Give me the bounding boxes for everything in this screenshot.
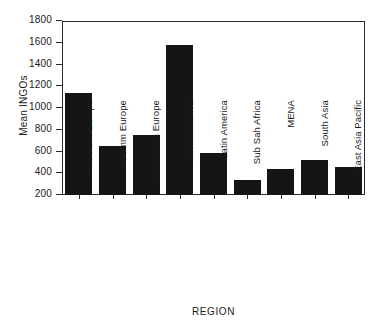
y-tick-label: 1000 <box>0 101 52 113</box>
x-category-label-text: MENA <box>285 100 296 200</box>
y-tick-mark <box>56 172 62 173</box>
x-category-label-text: Sub Sah Africa <box>251 100 262 200</box>
x-tick-mark <box>348 195 349 199</box>
y-tick-mark <box>56 64 62 65</box>
x-tick-mark <box>113 195 114 199</box>
y-tick-mark <box>56 107 62 108</box>
x-tick-mark <box>146 195 147 199</box>
x-tick-mark <box>247 195 248 199</box>
y-tick-label: 1600 <box>0 36 52 48</box>
x-category-label: MENA <box>285 100 296 200</box>
x-tick-mark <box>180 195 181 199</box>
x-category-label: North America <box>184 100 195 200</box>
x-tick-mark <box>79 195 80 199</box>
x-category-label: South Asia <box>319 100 330 200</box>
x-category-label-text: Western Europe <box>83 100 94 200</box>
x-axis-title: REGION <box>62 306 365 317</box>
x-category-label-text: Latin America <box>218 100 229 200</box>
x-category-label: East Asia Pacific <box>352 100 363 200</box>
y-tick-mark <box>56 42 62 43</box>
y-tick-mark <box>56 129 62 130</box>
x-category-label: Sub Sah Africa <box>251 100 262 200</box>
x-category-label: Comm Europe <box>117 100 128 200</box>
x-category-label: Post-Comm Europe <box>150 100 161 200</box>
x-category-label-text: East Asia Pacific <box>352 100 363 200</box>
x-category-label-text: Comm Europe <box>117 100 128 200</box>
bar-chart-figure: Mean INGOs 20040060080010001200140016001… <box>0 0 384 332</box>
y-tick-label: 800 <box>0 123 52 135</box>
y-tick-label: 200 <box>0 188 52 200</box>
y-tick-mark <box>56 85 62 86</box>
y-tick-mark <box>56 194 62 195</box>
x-tick-mark <box>214 195 215 199</box>
y-tick-label: 1400 <box>0 58 52 70</box>
y-tick-label: 1800 <box>0 14 52 26</box>
x-category-label-text: North America <box>184 100 195 200</box>
y-tick-mark <box>56 151 62 152</box>
x-tick-mark <box>315 195 316 199</box>
x-category-label-text: South Asia <box>319 100 330 200</box>
y-tick-mark <box>56 20 62 21</box>
x-category-label: Western Europe <box>83 100 94 200</box>
x-tick-mark <box>281 195 282 199</box>
x-category-label: Latin America <box>218 100 229 200</box>
x-category-label-text: Post-Comm Europe <box>150 100 161 200</box>
y-tick-label: 600 <box>0 145 52 157</box>
y-tick-label: 400 <box>0 166 52 178</box>
y-tick-label: 1200 <box>0 79 52 91</box>
